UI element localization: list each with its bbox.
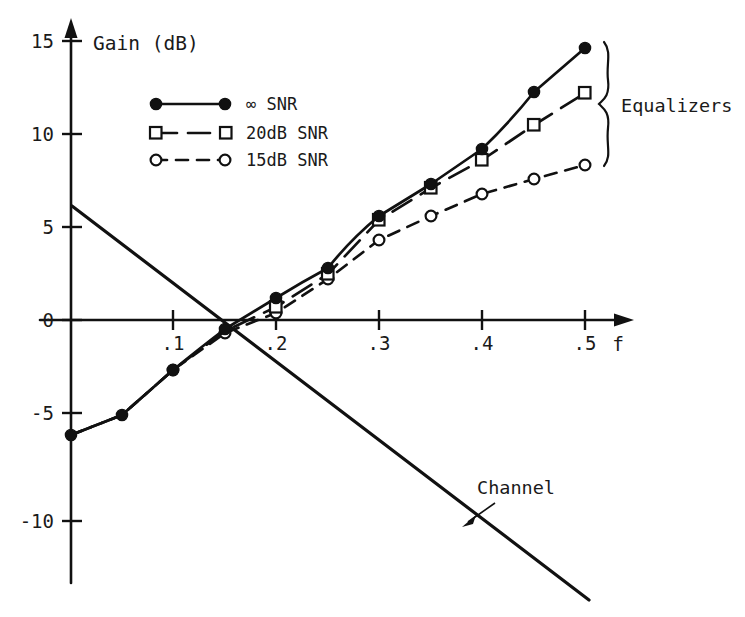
- legend-item-20db-snr[interactable]: 20dB SNR: [150, 123, 329, 143]
- y-axis-arrowhead: [65, 18, 78, 38]
- legend-label-20db-snr: 20dB SNR: [246, 123, 329, 143]
- channel-leader-arrowhead: [462, 515, 476, 527]
- y-tick-label-15: 15: [31, 30, 54, 52]
- data-point: [373, 210, 384, 221]
- equalizers-brace-icon: [599, 42, 608, 166]
- data-point: [116, 409, 127, 420]
- y-tick-label-m5: -5: [31, 402, 54, 424]
- data-point: [580, 160, 591, 171]
- data-point: [528, 86, 539, 97]
- data-point: [476, 154, 488, 166]
- series-inf-snr: [65, 42, 590, 440]
- x-axis-title: f: [612, 333, 624, 356]
- chart-legend: ∞ SNR 20dB SNR 15dB SNR: [150, 94, 329, 170]
- figure-container: 15 10 5 0 -5 -10 .1 .2 .3 .4 .5 Gain (dB…: [0, 0, 745, 617]
- series-inf-snr-markers: [65, 42, 590, 440]
- x-tick-label-0.1: .1: [162, 332, 185, 354]
- data-point: [374, 235, 385, 246]
- data-point: [270, 292, 281, 303]
- y-tick-label-0: 0: [43, 309, 54, 331]
- x-tick-label-0.3: .3: [368, 332, 391, 354]
- data-point: [529, 174, 540, 185]
- legend-item-15db-snr[interactable]: 15dB SNR: [151, 150, 329, 170]
- data-point: [477, 189, 488, 200]
- channel-annotation: Channel: [462, 477, 555, 527]
- legend-marker-open-circle: [151, 155, 162, 166]
- x-tick-label-0.2: .2: [265, 332, 288, 354]
- equalizers-label: Equalizers: [621, 95, 732, 116]
- x-tick-label-0.4: .4: [471, 332, 494, 354]
- y-tick-label-5: 5: [43, 216, 54, 238]
- legend-item-inf-snr[interactable]: ∞ SNR: [150, 94, 298, 114]
- data-point: [425, 178, 436, 189]
- series-15db-snr-line: [71, 165, 585, 435]
- data-point: [476, 143, 487, 154]
- legend-label-15db-snr: 15dB SNR: [246, 150, 329, 170]
- data-point: [322, 262, 333, 273]
- legend-marker-open-square: [220, 127, 232, 139]
- gain-vs-frequency-chart: 15 10 5 0 -5 -10 .1 .2 .3 .4 .5 Gain (dB…: [0, 0, 745, 617]
- data-point: [579, 87, 591, 99]
- axis-group: 15 10 5 0 -5 -10 .1 .2 .3 .4 .5 Gain (dB…: [20, 18, 634, 583]
- data-point: [219, 323, 230, 334]
- equalizers-annotation: Equalizers: [599, 42, 732, 166]
- x-tick-label-0.5: .5: [574, 332, 597, 354]
- y-tick-label-10: 10: [31, 123, 54, 145]
- data-point: [65, 429, 76, 440]
- data-point: [528, 119, 540, 131]
- legend-marker-filled-circle: [219, 98, 230, 109]
- data-point: [426, 211, 437, 222]
- legend-marker-open-circle: [220, 155, 231, 166]
- series-15db-snr: [71, 160, 590, 435]
- series-inf-snr-line: [71, 48, 585, 435]
- channel-label: Channel: [477, 477, 555, 498]
- data-point: [579, 42, 590, 53]
- legend-marker-open-square: [150, 127, 162, 139]
- y-axis-title: Gain (dB): [93, 32, 199, 55]
- y-tick-label-m10: -10: [20, 510, 54, 532]
- x-axis-arrowhead: [614, 314, 634, 327]
- data-point: [167, 364, 178, 375]
- legend-label-inf-snr: ∞ SNR: [246, 94, 298, 114]
- legend-marker-filled-circle: [150, 98, 161, 109]
